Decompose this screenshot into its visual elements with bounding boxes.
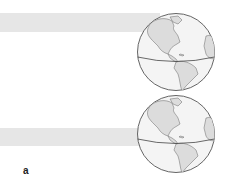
panel-label: a <box>23 165 29 176</box>
globe-top <box>136 12 216 92</box>
globe-bottom <box>136 94 216 174</box>
